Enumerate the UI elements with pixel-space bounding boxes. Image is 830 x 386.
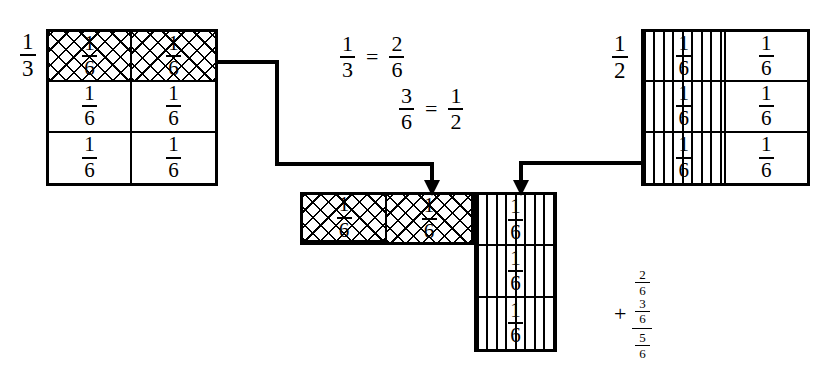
sum-rule <box>632 328 652 330</box>
grid-cell: 1 6 <box>303 195 387 242</box>
grid-cell: 1 6 <box>132 32 215 82</box>
cell-fraction: 1 6 <box>676 134 691 181</box>
equation-left-fraction: 1 3 <box>340 33 355 82</box>
grid-cell: 1 6 <box>726 82 808 132</box>
grid-cell: 1 6 <box>477 246 554 297</box>
cell-fraction: 1 6 <box>676 33 691 80</box>
equation-three-sixths-equals-one-half: 3 6 = 1 2 <box>399 85 463 134</box>
result-model-column: 1 6 1 6 1 6 <box>474 192 557 352</box>
cell-fraction: 1 6 <box>508 300 523 347</box>
sum-addend-1: 2 6 <box>635 268 650 297</box>
grid-cell: 1 6 <box>132 82 215 132</box>
left-model-grid: 1 6 1 6 1 6 1 6 <box>46 29 218 186</box>
vertical-sum: + 2 6 3 6 5 6 <box>614 268 652 360</box>
grid-cell: 1 6 <box>644 82 726 132</box>
sum-total: 5 6 <box>635 331 650 360</box>
cell-fraction: 1 6 <box>166 134 181 181</box>
cell-fraction: 1 6 <box>508 196 523 243</box>
cell-fraction: 1 6 <box>759 83 774 130</box>
equals-sign: = <box>366 44 378 70</box>
right-model-side-label: 1 2 <box>612 32 628 83</box>
cell-fraction: 1 6 <box>422 195 437 242</box>
cell-fraction: 1 6 <box>82 83 97 130</box>
grid-cell: 1 6 <box>644 133 726 183</box>
left-model-side-label: 1 3 <box>20 30 36 81</box>
sum-addend-2: 3 6 <box>635 297 650 326</box>
cell-fraction: 1 6 <box>759 134 774 181</box>
grid-cell: 1 6 <box>49 32 132 82</box>
grid-cell: 1 6 <box>726 133 808 183</box>
plus-sign: + <box>614 303 626 325</box>
fraction-addition-diagram: 1 3 1 6 1 6 1 6 <box>0 0 830 386</box>
grid-cell: 1 6 <box>49 133 132 183</box>
cell-fraction: 1 6 <box>676 83 691 130</box>
grid-cell: 1 6 <box>132 133 215 183</box>
grid-cell: 1 6 <box>477 195 554 246</box>
cell-fraction: 1 6 <box>337 195 352 241</box>
grid-cell: 1 6 <box>387 195 471 242</box>
grid-cell: 1 6 <box>644 32 726 82</box>
right-model-grid: 1 6 1 6 1 6 1 6 <box>641 29 810 186</box>
equals-sign: = <box>425 96 437 122</box>
equation-left-fraction: 3 6 <box>399 85 414 134</box>
cell-fraction: 1 6 <box>508 248 523 295</box>
equation-right-fraction: 1 2 <box>448 85 463 134</box>
cell-fraction: 1 6 <box>82 33 97 80</box>
cell-fraction: 1 6 <box>759 33 774 80</box>
connector-right-to-result <box>521 163 641 182</box>
grid-cell: 1 6 <box>477 298 554 349</box>
grid-cell: 1 6 <box>726 32 808 82</box>
cell-fraction: 1 6 <box>166 33 181 80</box>
fraction-one-half: 1 2 <box>612 32 628 83</box>
sum-stack: 2 6 3 6 5 6 <box>632 268 652 360</box>
equation-one-third-equals-two-sixths: 1 3 = 2 6 <box>340 33 404 82</box>
result-model-top-row: 1 6 1 6 <box>300 192 474 245</box>
grid-cell: 1 6 <box>49 82 132 132</box>
cell-fraction: 1 6 <box>82 134 97 181</box>
equation-right-fraction: 2 6 <box>389 33 404 82</box>
fraction-one-third: 1 3 <box>20 30 36 81</box>
cell-fraction: 1 6 <box>166 83 181 130</box>
